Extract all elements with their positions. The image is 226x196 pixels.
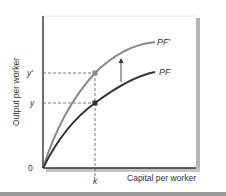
curve-pf: [43, 72, 155, 168]
curve-pf-prime: [43, 42, 155, 168]
production-function-chart: PF' PF y' y 0 k Output per worker Capita…: [0, 0, 226, 196]
tick-k: k: [93, 176, 98, 186]
x-axis-title: Capital per worker: [127, 173, 196, 183]
bottom-rule: [0, 192, 226, 196]
marker-pf-at-k: [93, 101, 98, 106]
y-axis-title: Output per worker: [11, 58, 21, 126]
origin-label: 0: [28, 163, 33, 173]
arrow-up-icon: [119, 58, 124, 63]
tick-y-prime: y': [26, 68, 33, 78]
label-pf: PF: [159, 67, 171, 77]
label-pf-prime: PF': [157, 37, 171, 47]
marker-pf-prime-at-k: [93, 71, 98, 76]
frame-shadow-right: [196, 18, 200, 172]
tick-y: y: [29, 98, 35, 108]
